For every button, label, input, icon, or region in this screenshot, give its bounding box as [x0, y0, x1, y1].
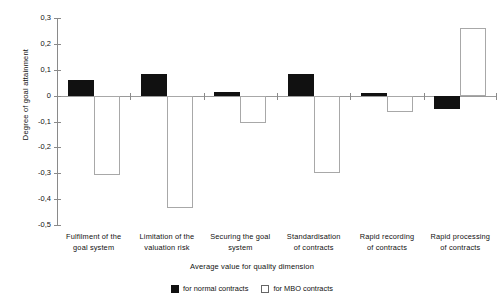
y-axis-tick	[54, 173, 61, 174]
y-axis-tick	[54, 225, 61, 226]
y-axis-tick-label: 0,1	[19, 65, 51, 74]
category-label-line-1: Standardisation	[287, 232, 341, 241]
bar-normal-contracts	[361, 93, 387, 96]
y-axis-tick-label-wrap: 0,1	[19, 65, 51, 74]
bar-normal-contracts	[214, 92, 240, 96]
y-axis-tick	[54, 70, 61, 71]
plot-area: 0,30,20,10-0,1-0,2-0,3-0,4-0,5	[57, 18, 497, 225]
category-label-line-1: Rapid recording	[360, 232, 414, 241]
x-axis-tick	[130, 93, 131, 100]
legend-item-normal: for normal contracts	[171, 284, 248, 293]
legend-label-mbo: for MBO contracts	[273, 284, 333, 293]
x-axis-category-label: Fulfilment of thegoal system	[51, 232, 136, 253]
bar-normal-contracts	[434, 96, 460, 109]
category-label-line-1: Limitation of the	[140, 232, 195, 241]
bar-mbo-contracts	[387, 96, 413, 113]
x-axis-tick	[204, 93, 205, 100]
category-label-line-2: of contracts	[344, 243, 429, 254]
y-axis-tick	[54, 18, 61, 19]
category-label-line-1: Securing the goal	[210, 232, 270, 241]
legend-swatch-mbo-icon	[261, 285, 269, 293]
x-axis-title: Average value for quality dimension	[0, 262, 504, 271]
category-label-line-2: valuation risk	[124, 243, 209, 254]
x-axis-category-label: Rapid recordingof contracts	[344, 232, 429, 253]
y-axis-tick-label: 0,2	[19, 39, 51, 48]
y-axis-tick-label-wrap: -0,2	[19, 142, 51, 151]
y-axis-tick-label: -0,4	[19, 194, 51, 203]
category-label-line-2: of contracts	[418, 243, 503, 254]
y-axis-tick-label: -0,3	[19, 168, 51, 177]
y-axis-tick-label-wrap: 0	[19, 91, 51, 100]
y-axis-tick-label-wrap: 0,2	[19, 39, 51, 48]
bar-mbo-contracts	[314, 96, 340, 174]
x-axis-category-label: Rapid processingof contracts	[418, 232, 503, 253]
legend-swatch-normal-icon	[171, 285, 179, 293]
category-label-line-2: goal system	[51, 243, 136, 254]
y-axis-tick-label-wrap: -0,5	[19, 220, 51, 229]
x-axis-tick	[424, 93, 425, 100]
y-axis-tick-label-wrap: -0,1	[19, 117, 51, 126]
y-axis-tick-label: -0,5	[19, 220, 51, 229]
category-label-line-2: of contracts	[271, 243, 356, 254]
y-axis-tick-label-wrap: -0,3	[19, 168, 51, 177]
category-label-line-1: Fulfilment of the	[66, 232, 121, 241]
bar-normal-contracts	[288, 74, 314, 96]
x-axis-end-tick	[496, 93, 497, 100]
y-axis-tick-label: 0,3	[19, 13, 51, 22]
y-axis-tick-label: -0,2	[19, 142, 51, 151]
bar-mbo-contracts	[460, 28, 486, 95]
y-axis-tick	[54, 122, 61, 123]
y-axis-tick	[54, 96, 61, 97]
x-axis-category-label: Limitation of thevaluation risk	[124, 232, 209, 253]
bar-normal-contracts	[68, 80, 94, 96]
x-axis-category-label: Standardisationof contracts	[271, 232, 356, 253]
bar-mbo-contracts	[240, 96, 266, 123]
y-axis-tick-label-wrap: 0,3	[19, 13, 51, 22]
x-axis-tick	[350, 93, 351, 100]
y-axis-tick	[54, 199, 61, 200]
category-label-line-1: Rapid processing	[431, 232, 491, 241]
chart-legend: for normal contracts for MBO contracts	[0, 284, 504, 293]
y-axis-tick-label-wrap: -0,4	[19, 194, 51, 203]
bar-mbo-contracts	[167, 96, 193, 209]
legend-item-mbo: for MBO contracts	[261, 284, 333, 293]
y-axis-tick	[54, 147, 61, 148]
legend-label-normal: for normal contracts	[183, 284, 248, 293]
y-axis-tick-label: -0,1	[19, 117, 51, 126]
category-label-line-2: system	[198, 243, 283, 254]
y-axis-tick-label: 0	[19, 91, 51, 100]
bar-chart: Degree of goal attainment 0,30,20,10-0,1…	[0, 0, 504, 307]
bar-normal-contracts	[141, 74, 167, 96]
x-axis-tick	[277, 93, 278, 100]
bar-mbo-contracts	[94, 96, 120, 175]
y-axis-tick	[54, 44, 61, 45]
x-axis-category-label: Securing the goalsystem	[198, 232, 283, 253]
